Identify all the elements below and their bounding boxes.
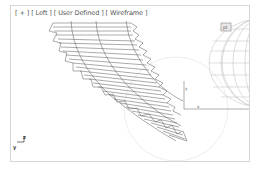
object-tag-label: pt	[223, 25, 228, 30]
gizmo-y-label: y	[185, 86, 188, 91]
axis-tripod-z-label: z	[23, 134, 26, 140]
gear-wireframe[interactable]	[49, 21, 187, 141]
viewport-left[interactable]: [ + ] [ Left ] [ User Defined ] [ Wirefr…	[10, 5, 250, 162]
axis-tripod-y-label: y	[13, 144, 16, 150]
transform-gizmo[interactable]	[184, 81, 250, 109]
scene-canvas[interactable]: pt	[11, 6, 250, 162]
gizmo-x-label: x	[197, 104, 200, 109]
sphere-wireframe[interactable]	[209, 19, 250, 107]
